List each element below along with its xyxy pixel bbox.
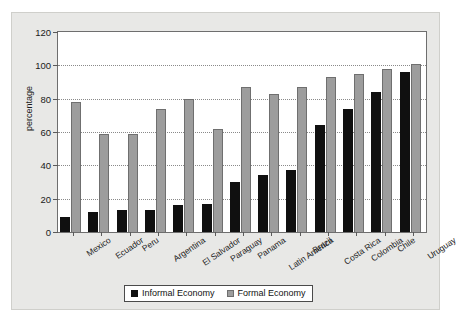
bar-group xyxy=(144,32,172,232)
bar-group xyxy=(229,32,257,232)
y-axis-tick-label: 60 xyxy=(40,127,51,138)
bar xyxy=(184,99,194,232)
bar-group xyxy=(172,32,200,232)
bar xyxy=(315,125,325,232)
bar xyxy=(269,94,279,232)
chart-legend: Informal Economy Formal Economy xyxy=(124,285,313,302)
y-axis-tick xyxy=(53,65,58,66)
y-axis-tick xyxy=(53,132,58,133)
y-axis-title: percentage xyxy=(24,86,34,131)
bar-group xyxy=(314,32,342,232)
bar xyxy=(258,175,268,232)
bar-group xyxy=(59,32,87,232)
y-axis-tick-label: 20 xyxy=(40,193,51,204)
bar xyxy=(71,102,81,232)
bar-group xyxy=(201,32,229,232)
bar xyxy=(145,210,155,232)
bar xyxy=(230,182,240,232)
x-axis-labels: MexicoEcuadorPeruArgentinaEl SalvadorPar… xyxy=(58,235,428,285)
plot-area: 020406080100120 xyxy=(57,31,427,233)
bar xyxy=(88,212,98,232)
bar xyxy=(173,205,183,232)
y-axis-tick-label: 80 xyxy=(40,93,51,104)
y-axis-tick xyxy=(53,32,58,33)
bar xyxy=(297,87,307,232)
legend-swatch-informal-icon xyxy=(131,290,138,297)
bar xyxy=(354,74,364,232)
legend-label-formal: Formal Economy xyxy=(238,288,306,298)
bar xyxy=(117,210,127,232)
bar-group xyxy=(116,32,144,232)
y-axis-tick-label: 120 xyxy=(35,27,51,38)
bar xyxy=(60,217,70,232)
y-axis-tick-label: 40 xyxy=(40,160,51,171)
y-axis-tick xyxy=(53,99,58,100)
legend-entry-formal: Formal Economy xyxy=(227,288,306,298)
bar-group xyxy=(257,32,285,232)
y-axis-tick xyxy=(53,165,58,166)
bar xyxy=(411,64,421,232)
legend-label-informal: Informal Economy xyxy=(142,288,215,298)
bar-group xyxy=(285,32,313,232)
x-axis-label: Ecuador xyxy=(114,235,146,261)
bar-group xyxy=(399,32,427,232)
bar xyxy=(156,109,166,232)
bar xyxy=(213,129,223,232)
bar xyxy=(286,170,296,232)
bars-layer xyxy=(59,32,427,232)
legend-swatch-formal-icon xyxy=(227,290,234,297)
y-axis-tick xyxy=(53,232,58,233)
bar xyxy=(202,204,212,232)
legend-entry-informal: Informal Economy xyxy=(131,288,215,298)
bar xyxy=(400,72,410,232)
chart-figure: percentage 020406080100120 MexicoEcuador… xyxy=(11,12,440,310)
x-axis-label: Mexico xyxy=(85,235,113,258)
bar xyxy=(343,109,353,232)
bar xyxy=(326,77,336,232)
bar-group xyxy=(87,32,115,232)
bar xyxy=(241,87,251,232)
y-axis-tick-label: 100 xyxy=(35,60,51,71)
bar-group xyxy=(370,32,398,232)
bar xyxy=(128,134,138,232)
bar-group xyxy=(342,32,370,232)
x-axis-label: Uruguay xyxy=(425,235,457,261)
bar xyxy=(99,134,109,232)
bar xyxy=(382,69,392,232)
x-axis-label: Peru xyxy=(140,235,160,253)
bar xyxy=(371,92,381,232)
y-axis-tick xyxy=(53,199,58,200)
y-axis-tick-label: 0 xyxy=(46,227,51,238)
